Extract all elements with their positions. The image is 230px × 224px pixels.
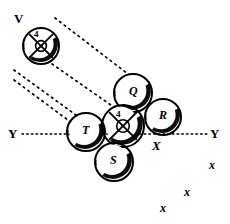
dotted-line-line-4 xyxy=(14,80,76,126)
mark-x-1: x xyxy=(209,159,215,171)
dotted-line-line-2 xyxy=(52,64,118,110)
mark-x-3: x xyxy=(160,202,166,214)
disk-r-label: R xyxy=(159,109,167,121)
disk-s-label: S xyxy=(110,154,117,166)
axis-label-y-right: Y xyxy=(210,127,219,140)
dotted-line-line-3 xyxy=(14,70,80,118)
disk-q-label: Q xyxy=(129,85,138,97)
optical-diagram-figure: Y Y X V4QR4TS xxx xyxy=(0,0,230,224)
mark-x-2: x xyxy=(184,186,190,198)
dotted-line-line-1 xyxy=(55,18,128,74)
axis-label-y-left: Y xyxy=(8,127,17,140)
disk-v-inner-label: 4 xyxy=(34,30,39,39)
disk-center xyxy=(102,105,144,147)
disk-v xyxy=(23,28,59,64)
axis-label-x: X xyxy=(152,139,161,152)
disk-t-label: T xyxy=(82,124,89,136)
disk-v-label: V xyxy=(14,12,23,25)
disk-center-inner-label: 4 xyxy=(116,110,121,119)
